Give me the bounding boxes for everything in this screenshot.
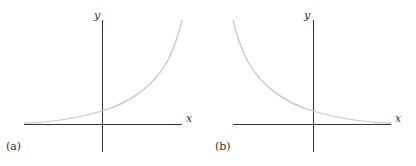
panel-a: x y (a) (6, 9, 193, 153)
x-axis-label: x (186, 112, 193, 125)
x-axis-label: x (395, 112, 402, 125)
exponential-graphs-figure: x y (a) x y (b) (0, 0, 416, 166)
decay-curve (233, 20, 391, 123)
panel-caption: (a) (6, 140, 21, 153)
panel-b: x y (b) (215, 9, 402, 153)
y-axis-label: y (93, 9, 101, 22)
y-axis-label: y (303, 9, 311, 22)
panel-caption: (b) (215, 140, 231, 153)
